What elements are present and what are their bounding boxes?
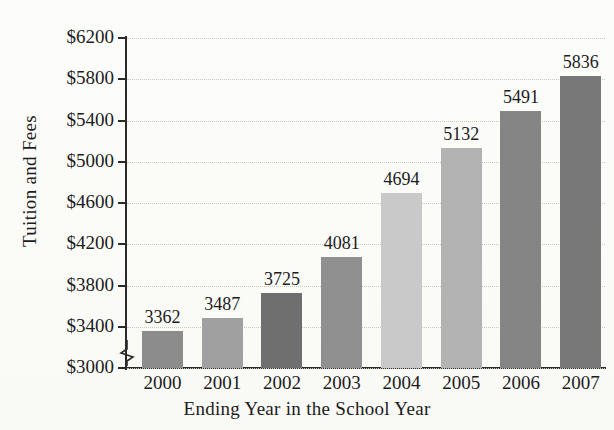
y-axis-tick-label: $3000 bbox=[22, 356, 114, 378]
y-axis-tick-label: $3400 bbox=[22, 315, 114, 337]
y-axis-tick bbox=[118, 78, 127, 80]
bar-value-label: 5491 bbox=[488, 87, 553, 108]
y-axis-tick bbox=[118, 202, 127, 204]
bar bbox=[261, 293, 302, 368]
bar-value-label: 4694 bbox=[369, 169, 434, 190]
y-axis-tick-label: $5800 bbox=[22, 67, 114, 89]
y-axis-tick bbox=[118, 285, 127, 287]
bar bbox=[142, 331, 183, 368]
y-axis-tick bbox=[118, 37, 127, 39]
y-axis-tick-label: $5400 bbox=[22, 109, 114, 131]
bar-value-label: 5836 bbox=[548, 52, 613, 73]
x-axis-tick-label: 2006 bbox=[488, 372, 553, 394]
bar bbox=[441, 148, 482, 368]
gridline bbox=[127, 368, 605, 369]
y-axis-tick bbox=[118, 120, 127, 122]
bar-value-label: 4081 bbox=[309, 233, 374, 254]
bar-value-label: 3725 bbox=[249, 269, 314, 290]
bar bbox=[202, 318, 243, 368]
bar-chart-figure: Tuition and Fees Ending Year in the Scho… bbox=[0, 0, 614, 430]
bar-value-label: 3487 bbox=[190, 294, 255, 315]
bar bbox=[381, 193, 422, 368]
bar bbox=[500, 111, 541, 368]
y-axis-tick bbox=[118, 326, 127, 328]
y-axis-tick-label: $4200 bbox=[22, 232, 114, 254]
y-axis-tick bbox=[118, 161, 127, 163]
bar bbox=[560, 76, 601, 368]
x-axis-tick-label: 2000 bbox=[130, 372, 195, 394]
x-axis-tick-label: 2002 bbox=[249, 372, 314, 394]
x-axis-tick-label: 2005 bbox=[429, 372, 494, 394]
x-axis-tick-label: 2001 bbox=[190, 372, 255, 394]
x-axis-tick-label: 2003 bbox=[309, 372, 374, 394]
x-axis-title: Ending Year in the School Year bbox=[0, 398, 614, 420]
bar-value-label: 5132 bbox=[429, 124, 494, 145]
x-axis-tick-label: 2007 bbox=[548, 372, 613, 394]
y-axis-tick-label: $4600 bbox=[22, 191, 114, 213]
x-axis-tick-label: 2004 bbox=[369, 372, 434, 394]
y-axis-tick-label: $6200 bbox=[22, 26, 114, 48]
y-axis-tick bbox=[118, 243, 127, 245]
y-axis-tick-label: $5000 bbox=[22, 150, 114, 172]
y-axis-tick-label: $3800 bbox=[22, 274, 114, 296]
y-axis-tick bbox=[118, 367, 127, 369]
bar-value-label: 3362 bbox=[130, 307, 195, 328]
bar bbox=[321, 257, 362, 368]
